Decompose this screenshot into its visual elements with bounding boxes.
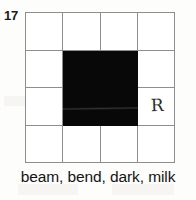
grid-cell[interactable] [101, 126, 138, 164]
grid-cell[interactable] [101, 13, 138, 51]
grid-cell-answer[interactable]: R [138, 88, 175, 126]
grid-cell[interactable] [63, 126, 100, 164]
grid-cell-filled[interactable] [101, 88, 138, 126]
grid-cell[interactable] [26, 88, 63, 126]
word-list: beam, bend, dark, milk [0, 168, 196, 186]
handwritten-answer-mark: R [137, 87, 175, 125]
grid-cell[interactable] [26, 126, 63, 164]
grid-cell[interactable] [138, 13, 175, 51]
grid-cell-filled[interactable] [63, 88, 100, 126]
grid-cell[interactable] [26, 13, 63, 51]
grid-container: R [25, 12, 175, 163]
grid-cell-filled[interactable] [63, 51, 100, 89]
item-number: 17 [4, 9, 18, 22]
grid-cell-filled[interactable] [101, 51, 138, 89]
grid-cell[interactable] [26, 51, 63, 89]
grid-cell[interactable] [138, 51, 175, 89]
worksheet-page: 17 R beam, bend [0, 0, 196, 200]
grid-cell[interactable] [138, 126, 175, 164]
puzzle-grid: R [25, 12, 175, 163]
grid-cell[interactable] [63, 13, 100, 51]
